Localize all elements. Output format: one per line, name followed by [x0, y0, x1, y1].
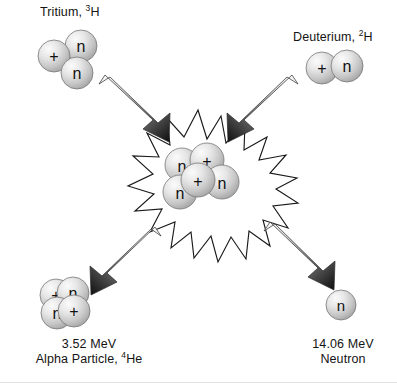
arrow-alpha-outbound [90, 227, 161, 295]
nucleon-label: + [317, 60, 326, 77]
fusion-core-nucleus: n + n n + [163, 143, 239, 209]
alpha-name: Alpha Particle, [36, 352, 122, 366]
nucleon-label: n [73, 65, 82, 82]
alpha-element-symbol: He [126, 352, 142, 366]
alpha-name-line: Alpha Particle, 4He [14, 352, 164, 367]
nucleon-label: + [193, 173, 202, 190]
nucleon-label: n [77, 38, 86, 55]
neutron-label: 14.06 MeV Neutron [296, 337, 390, 367]
deuterium-element-symbol: H [364, 30, 373, 44]
tritium-element-symbol: H [90, 5, 99, 19]
deuterium-name: Deuterium, [293, 30, 359, 44]
tritium-label: Tritium, 3H [40, 5, 100, 19]
deuterium-nucleus: + n [306, 50, 363, 84]
fusion-diagram: n + n + n n + n n + [0, 0, 397, 383]
tritium-name: Tritium, [40, 5, 86, 19]
nucleon-label: n [218, 175, 227, 192]
tritium-nucleus: n + n [38, 30, 97, 89]
deuterium-label: Deuterium, 2H [293, 30, 373, 44]
nucleon-label: + [69, 303, 78, 320]
nucleon-label: n [337, 297, 345, 314]
alpha-particle-nucleus: + n n + [40, 277, 90, 329]
nucleon-label: n [343, 58, 352, 75]
neutron-energy-value: 14.06 MeV [296, 337, 390, 352]
free-neutron: n [326, 290, 356, 320]
diagram-canvas: n + n + n n + n n + [0, 0, 397, 383]
arrow-tritium-inbound [99, 75, 170, 142]
alpha-energy-value: 3.52 MeV [14, 337, 164, 352]
arrow-deuterium-inbound [227, 75, 298, 142]
neutron-name: Neutron [296, 352, 390, 367]
alpha-particle-label: 3.52 MeV Alpha Particle, 4He [14, 337, 164, 367]
nucleon-label: + [49, 48, 58, 65]
arrow-neutron-outbound [264, 222, 335, 290]
